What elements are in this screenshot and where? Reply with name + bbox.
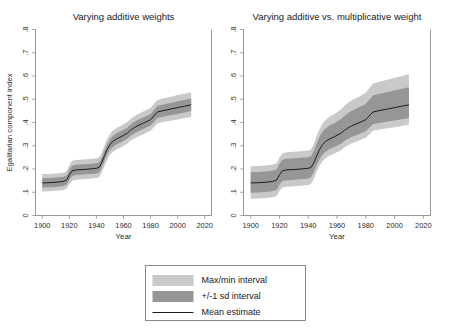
- y-tick-label: .5: [229, 96, 238, 102]
- y-tick-label: .4: [21, 119, 30, 125]
- x-tick-label: 1980: [358, 221, 374, 230]
- panel-varying-additive-vs-multiplicative: Varying additive vs. multiplicative weig…: [229, 11, 431, 241]
- x-tick-label: 1960: [329, 221, 345, 230]
- legend-swatch-sd: [153, 291, 194, 302]
- y-tick-label: .7: [21, 50, 30, 56]
- y-tick-label: 0: [229, 213, 238, 217]
- y-tick-label: .6: [21, 73, 30, 79]
- x-tick-label: 2000: [169, 221, 185, 230]
- x-tick-label: 1980: [142, 221, 158, 230]
- x-axis-label: Year: [329, 232, 345, 241]
- figure-root: Varying additive weights0.1.2.3.4.5.6.7.…: [0, 0, 449, 330]
- y-axis-label: Egalitarian component index: [5, 73, 14, 171]
- x-tick-label: 1940: [300, 221, 316, 230]
- legend-item-label: Max/min interval: [202, 275, 268, 285]
- y-tick-label: .1: [229, 189, 238, 195]
- x-tick-label: 2020: [415, 221, 431, 230]
- y-tick-label: .4: [229, 119, 238, 125]
- legend-item-label: Mean estimate: [202, 307, 261, 317]
- x-tick-label: 1960: [115, 221, 131, 230]
- x-tick-label: 2020: [197, 221, 213, 230]
- x-tick-label: 1920: [271, 221, 287, 230]
- y-tick-label: .8: [21, 26, 30, 32]
- legend: Max/min interval+/-1 sd intervalMean est…: [146, 266, 306, 321]
- y-tick-label: .6: [229, 73, 238, 79]
- y-tick-label: .7: [229, 50, 238, 56]
- y-tick-label: .3: [229, 143, 238, 149]
- x-axis-label: Year: [116, 232, 132, 241]
- y-tick-label: .2: [229, 166, 238, 172]
- x-tick-label: 1900: [242, 221, 258, 230]
- panel-title: Varying additive vs. multiplicative weig…: [253, 11, 422, 22]
- panel-title: Varying additive weights: [73, 11, 175, 22]
- legend-item-label: +/-1 sd interval: [202, 291, 261, 301]
- x-tick-label: 1940: [88, 221, 104, 230]
- x-tick-label: 2000: [386, 221, 402, 230]
- sd-interval-band: [251, 87, 409, 193]
- legend-swatch-maxmin: [153, 275, 194, 286]
- y-tick-label: .5: [21, 96, 30, 102]
- y-tick-label: .2: [21, 166, 30, 172]
- y-tick-label: .8: [229, 26, 238, 32]
- x-tick-label: 1900: [34, 221, 50, 230]
- y-tick-label: 0: [21, 213, 30, 217]
- y-tick-label: .3: [21, 143, 30, 149]
- y-tick-label: .1: [21, 189, 30, 195]
- panel-varying-additive-weights: Varying additive weights0.1.2.3.4.5.6.7.…: [5, 11, 213, 241]
- x-tick-label: 1920: [61, 221, 77, 230]
